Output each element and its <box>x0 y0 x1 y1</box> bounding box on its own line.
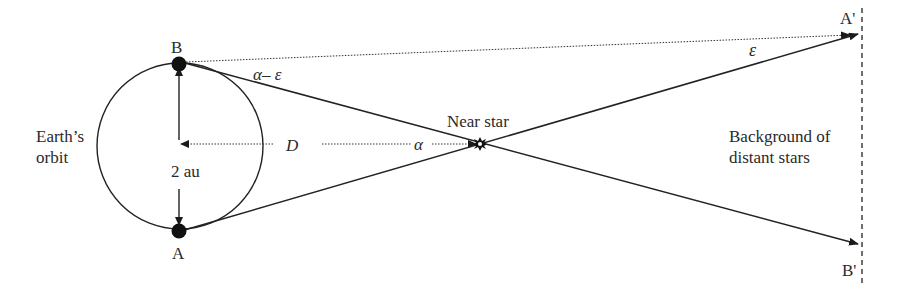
label-distance: D <box>285 136 299 155</box>
label-alpha-minus-epsilon: α– ε <box>253 65 282 84</box>
parallax-diagram: B A Earth’s orbit 2 au D α– ε α ε Near s… <box>0 0 901 288</box>
position-b-dot <box>172 57 187 72</box>
label-earth-orbit-1: Earth’s <box>36 127 84 146</box>
label-epsilon: ε <box>749 40 757 60</box>
label-b-prime: B' <box>842 261 856 280</box>
label-background-2: distant stars <box>729 148 810 167</box>
position-a-dot <box>172 224 187 239</box>
label-point-b: B <box>171 38 182 57</box>
label-earth-orbit-2: orbit <box>36 148 68 167</box>
label-a-prime: A' <box>840 9 855 28</box>
label-near-star: Near star <box>447 112 509 131</box>
label-background-1: Background of <box>729 127 831 146</box>
label-alpha: α <box>414 135 424 154</box>
near-star-icon <box>473 137 487 151</box>
label-point-a: A <box>172 244 185 263</box>
earth-orbit-circle <box>97 63 263 229</box>
label-baseline: 2 au <box>171 162 200 181</box>
